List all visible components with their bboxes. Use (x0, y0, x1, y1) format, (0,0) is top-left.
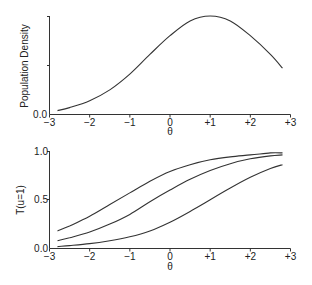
x-tick-label: +1 (204, 117, 216, 128)
x-tick-label: −1 (124, 117, 136, 128)
density-x-axis-title: θ (167, 126, 173, 137)
trace-y-tick-label-1: 1.0 (34, 146, 48, 157)
density-chart: −3−2−10+1+2+3 0.0 Population Density θ (19, 16, 297, 137)
density-y-tick-label-0: 0.0 (33, 109, 47, 120)
x-tick-label: −3 (44, 251, 56, 262)
trace-curve-easy (58, 153, 283, 231)
x-tick-label: −2 (84, 251, 96, 262)
x-tick-label: +3 (285, 251, 297, 262)
trace-curve-medium (58, 155, 283, 241)
trace-y-axis-title: T(u=1) (15, 185, 26, 215)
x-tick-label: +3 (285, 117, 297, 128)
trace-y-tick-label-05: 0.5 (34, 194, 48, 205)
density-y-axis-title: Population Density (19, 24, 30, 107)
x-tick-label: −1 (124, 251, 136, 262)
x-tick-label: +1 (204, 251, 216, 262)
trace-curve-hard (58, 165, 283, 247)
density-curve (58, 16, 283, 111)
trace-x-ticks: −3−2−10+1+2+3 (44, 249, 297, 263)
x-tick-label: +2 (245, 251, 257, 262)
trace-line-chart: 0.0 0.5 1.0 −3−2−10+1+2+3 T(u=1) θ (15, 146, 297, 272)
trace-x-axis-title: θ (167, 261, 173, 272)
figure: −3−2−10+1+2+3 0.0 Population Density θ 0… (0, 0, 312, 285)
x-tick-label: +2 (245, 117, 257, 128)
x-tick-label: −2 (84, 117, 96, 128)
